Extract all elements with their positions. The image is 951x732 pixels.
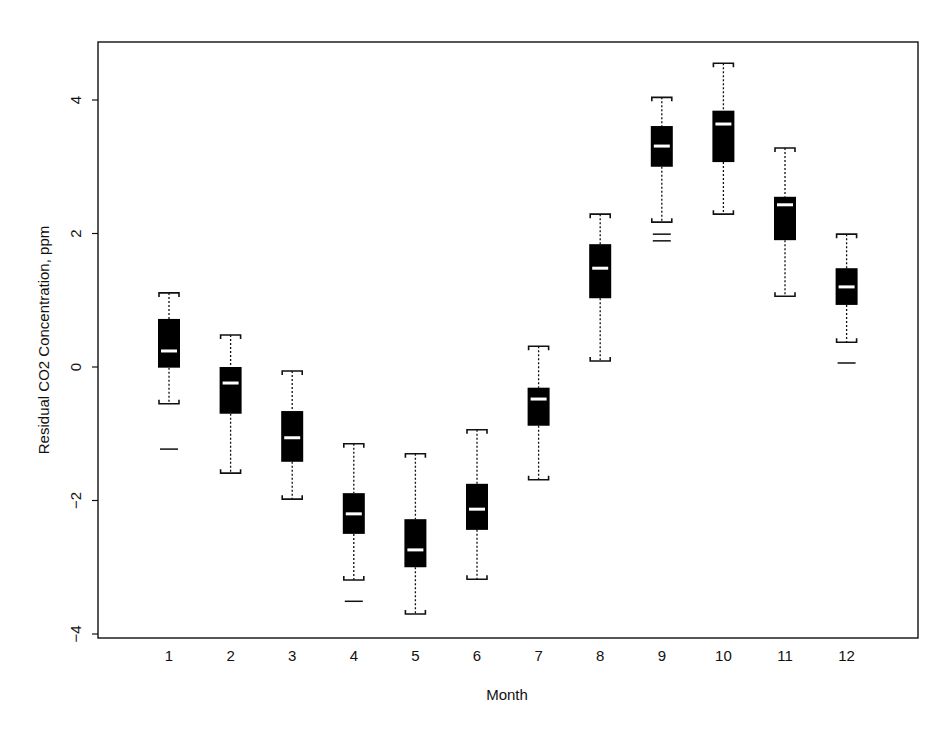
x-axis-title: Month (486, 686, 528, 703)
x-tick-label: 9 (658, 647, 666, 664)
x-tick-label: 1 (165, 647, 173, 664)
x-tick-label: 10 (715, 647, 732, 664)
y-axis-title: Residual CO2 Concentration, ppm (35, 226, 52, 454)
y-tick-label: 0 (67, 363, 84, 371)
interquartile-box (220, 367, 242, 414)
interquartile-box (528, 388, 550, 426)
y-tick-label: 2 (67, 229, 84, 237)
interquartile-box (589, 244, 611, 298)
interquartile-box (712, 111, 734, 162)
interquartile-box (466, 484, 488, 530)
chart-background (0, 0, 951, 732)
interquartile-box (158, 319, 180, 368)
interquartile-box (774, 197, 796, 240)
x-tick-label: 11 (777, 647, 793, 664)
y-tick-label: 4 (67, 96, 84, 104)
x-tick-label: 7 (534, 647, 542, 664)
x-tick-label: 2 (226, 647, 234, 664)
y-tick-label: −4 (67, 625, 84, 642)
interquartile-box (404, 519, 426, 567)
boxplot-chart: 420−2−4 123456789101112 Month Residual C… (0, 0, 951, 732)
x-tick-label: 6 (473, 647, 481, 664)
chart-canvas: 420−2−4 123456789101112 Month Residual C… (0, 0, 951, 732)
x-tick-label: 8 (596, 647, 604, 664)
y-tick-label: −2 (67, 492, 84, 509)
x-tick-label: 3 (288, 647, 296, 664)
x-tick-label: 5 (411, 647, 419, 664)
x-tick-label: 12 (838, 647, 855, 664)
x-tick-label: 4 (350, 647, 358, 664)
